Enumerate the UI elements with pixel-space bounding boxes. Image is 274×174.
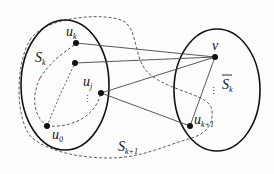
vertex-u-0 [44, 123, 50, 129]
label-u-j: uj [83, 74, 93, 91]
graph-diagram: uk Sk uj u0 Sk+1 v Sk uk+1 ⋮ ⋮ [0, 0, 274, 174]
label-u-k-plus-1: uk+1 [194, 112, 214, 129]
label-u-k: uk [66, 24, 77, 41]
label-s-k-plus-1: Sk+1 [118, 139, 138, 156]
vertex-u-j [72, 60, 78, 66]
vdots-right: ⋮ [209, 86, 218, 96]
path-u0-uj [47, 63, 75, 126]
edge-uj-v [75, 57, 215, 63]
path-s-k-curve [35, 78, 47, 126]
vertex-v [212, 54, 218, 60]
label-v: v [212, 38, 219, 53]
edge-ui-v [101, 57, 215, 93]
vertex-u-k-plus-1 [187, 123, 193, 129]
diagram-canvas: uk Sk uj u0 Sk+1 v Sk uk+1 ⋮ ⋮ [0, 0, 274, 174]
label-u-0: u0 [52, 127, 63, 144]
set-s-k-plus-1-boundary [19, 17, 212, 158]
vertex-u-i [98, 90, 104, 96]
label-s-k: Sk [35, 50, 46, 67]
edge-uk-v [76, 43, 215, 57]
vdots-left: ⋮ [83, 94, 92, 104]
label-s-k-complement: Sk [222, 77, 233, 94]
